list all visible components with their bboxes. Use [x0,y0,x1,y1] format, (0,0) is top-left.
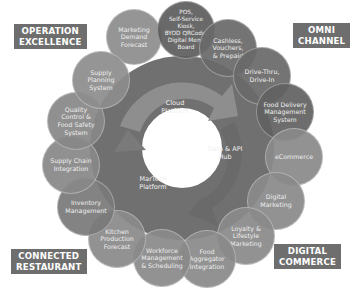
node-label: Marketing Demand Forecast [115,26,152,49]
tag-operation-excellence: OPERATION EXCELLENCE [14,24,87,49]
cycle-diagram: Cloud Platform Data & API Hub MarTech Pl… [0,0,360,291]
node-label: Food Delivery Management System [260,101,309,124]
node-label: Supply Chain Integration [47,157,94,172]
node-label: eCommerce [272,153,316,161]
node-supply-planning: Supply Planning System [72,51,130,109]
node-label: Quality Control & Food Safety System [54,106,97,136]
tag-digital-commerce: DIGITAL COMMERCE [274,244,341,269]
tag-connected-restaurant: CONNECTED RESTAURANT [11,249,87,274]
node-label: Workforce Management & Scheduling [138,247,186,270]
segment-label: Cloud Platform [161,99,188,115]
tag-omni-channel: OMNI CHANNEL [293,23,350,48]
node-label: Kitchen Production Forecast [97,228,137,251]
node-label: Food Aggregator Integration [186,248,227,271]
node-label: Inventory Management [62,199,109,214]
segment-data-api-hub: Data & API Hub [200,146,250,162]
segment-martech-platform: MarTech Platform [128,176,178,192]
node-label: Digital Marketing [257,193,294,208]
node-label: Loyalty & Lifestyle Marketing [227,225,264,248]
node-label: Drive-Thru, Drive-In [242,68,283,83]
segment-label: MarTech Platform [139,175,166,191]
segment-label: Data & API Hub [207,145,242,161]
node-label: Supply Planning System [84,69,117,92]
segment-cloud-platform: Cloud Platform [150,100,200,116]
